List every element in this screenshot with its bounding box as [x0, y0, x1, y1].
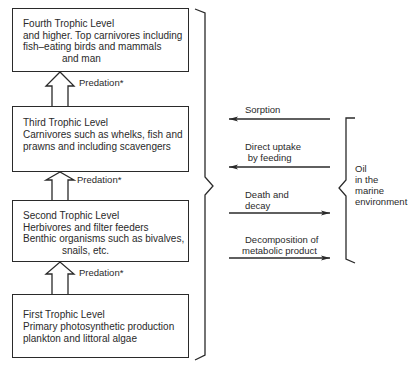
oil-label: Oil — [355, 163, 367, 174]
predation-arrow-icon — [46, 72, 74, 106]
predation-label: Predation* — [79, 77, 123, 88]
process-death-decay: Death and — [245, 189, 289, 200]
predation-arrow-icon — [46, 172, 74, 200]
predation-label: Predation* — [79, 267, 123, 278]
process-decomposition: Decomposition of — [245, 234, 318, 245]
oil-label: marine — [355, 185, 384, 196]
process-death-decay: decay — [245, 200, 270, 211]
process-sorption: Sorption — [245, 104, 280, 115]
trophic-brace — [195, 9, 213, 360]
oil-brace — [339, 118, 355, 263]
process-direct-uptake: by feeding — [245, 152, 291, 163]
predation-arrow-icon — [46, 262, 74, 294]
diagram-lines — [0, 0, 411, 369]
predation-label: Predation* — [77, 174, 121, 185]
process-direct-uptake: Direct uptake — [245, 141, 301, 152]
oil-label: in the — [355, 174, 378, 185]
oil-label: environment — [355, 196, 407, 207]
process-decomposition: metabolic product — [242, 245, 317, 256]
